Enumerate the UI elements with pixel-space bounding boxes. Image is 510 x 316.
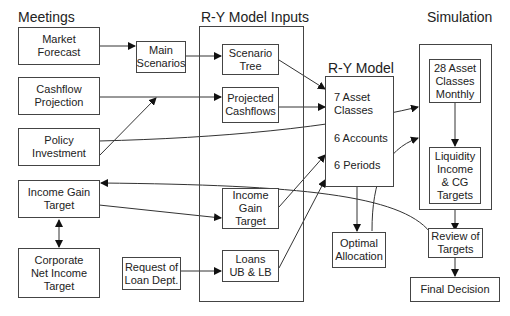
section-title-simulation: Simulation [427,9,492,25]
input-income-gain-target-box: Income Gain Target [222,188,279,229]
request-of-loan-dept-box: Request of Loan Dept. [122,257,181,290]
accounts-label: 6 Accounts [334,132,388,145]
periods-label: 6 Periods [334,159,380,172]
review-of-targets-box: Review of Targets [428,228,483,258]
asset-classes-label: 7 Asset Classes [334,91,373,117]
final-decision-box: Final Decision [410,277,500,302]
optimal-allocation-box: Optimal Allocation [332,232,386,268]
main-scenarios-box: Main Scenarios [136,41,186,73]
section-title-model-inputs: R-Y Model Inputs [201,9,309,25]
corporate-net-income-target-box: Corporate Net Income Target [18,248,100,298]
asset-classes-monthly-box: 28 Asset Classes Monthly [429,59,481,103]
policy-investment-box: Policy Investment [18,128,100,166]
scenario-tree-box: Scenario Tree [222,44,279,75]
loans-box: Loans UB & LB [222,250,279,282]
liquidity-targets-box: Liquidity Income & CG Targets [429,147,481,204]
market-forecast-box: Market Forecast [18,27,100,65]
section-title-meetings: Meetings [18,9,75,25]
ry-model-box: 7 Asset Classes 6 Accounts 6 Periods [325,76,394,187]
income-gain-target-box: Income Gain Target [18,180,100,218]
cashflow-projection-box: Cashflow Projection [18,77,100,115]
projected-cashflows-box: Projected Cashflows [222,87,279,123]
section-title-model: R-Y Model [328,60,394,76]
